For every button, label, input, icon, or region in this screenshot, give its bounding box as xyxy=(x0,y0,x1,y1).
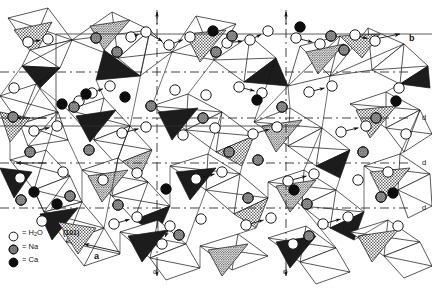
polyhedron-cluster-r4c2 xyxy=(120,220,200,280)
atom-na-shade xyxy=(65,191,75,201)
atom-h2o xyxy=(126,32,136,42)
atom-h2o xyxy=(370,36,380,46)
legend-item-na: = Na xyxy=(8,240,86,253)
atom-h2o xyxy=(185,32,195,42)
atom-h2o xyxy=(327,81,337,91)
legend-label-na: = Na xyxy=(22,243,38,251)
atom-h2o xyxy=(401,129,411,139)
atom-ca xyxy=(52,199,62,209)
atom-h2o xyxy=(234,82,244,92)
water-bond xyxy=(314,88,325,91)
legend-item-ca: = Ca xyxy=(8,253,86,266)
atom-na-shade xyxy=(326,31,336,41)
atom-h2o xyxy=(361,121,371,131)
atom-h2o xyxy=(98,175,108,185)
atom-na-shade xyxy=(227,31,237,41)
atom-ca xyxy=(57,99,67,109)
atom-ca xyxy=(295,22,305,32)
atom-na-shade xyxy=(84,145,94,155)
atom-h2o xyxy=(165,221,175,231)
crystal-structure-figure: a b (101) dddddd = H2O = Na = Ca xyxy=(0,0,432,291)
atom-h2o xyxy=(241,220,251,230)
atom-ca xyxy=(161,184,171,194)
atom-ca xyxy=(208,26,218,36)
atom-na-shade xyxy=(113,200,123,210)
atom-na-shade xyxy=(253,155,263,165)
atom-ca xyxy=(120,92,130,102)
atom-na-shade xyxy=(112,47,122,57)
na-circle-icon xyxy=(8,241,19,252)
atom-na-shade xyxy=(371,113,381,123)
atom-na-shade xyxy=(25,147,35,157)
polyhedron-cluster-r4c5 xyxy=(350,220,432,278)
water-bond xyxy=(346,128,358,131)
axis-label-b: b xyxy=(409,34,415,43)
atom-h2o xyxy=(245,35,255,45)
atom-h2o xyxy=(132,168,142,178)
atom-h2o xyxy=(37,216,47,226)
polyhedron-cluster-r3c1 xyxy=(0,150,82,212)
atom-ca xyxy=(252,95,262,105)
atom-na-shade xyxy=(146,101,156,111)
polyhedron-cluster-r2c3 xyxy=(152,94,254,166)
atom-h2o xyxy=(43,34,53,44)
atom-h2o xyxy=(58,167,68,177)
glide-label-bottom-2: d xyxy=(283,268,287,276)
atom-h2o xyxy=(350,30,360,40)
atom-na-shade xyxy=(304,231,314,241)
axis-label-a: a xyxy=(94,252,99,261)
atom-ca xyxy=(289,185,299,195)
atom-h2o xyxy=(263,26,273,36)
atom-ca xyxy=(29,187,39,197)
atom-h2o xyxy=(210,123,220,133)
glide-label-right-3: d xyxy=(422,159,426,167)
atom-na-shade xyxy=(358,147,368,157)
atom-h2o xyxy=(15,173,25,183)
atom-na-shade xyxy=(224,147,234,157)
atom-h2o xyxy=(9,83,19,93)
atom-na-shade xyxy=(339,45,349,55)
legend: = H2O = Na = Ca xyxy=(8,227,86,266)
atom-na-shade xyxy=(174,230,184,240)
atom-h2o xyxy=(304,87,314,97)
atom-ca xyxy=(388,188,398,198)
atom-na-shade xyxy=(302,199,312,209)
atom-na-shade xyxy=(277,102,287,112)
legend-label-h2o: = H2O xyxy=(22,229,43,238)
atom-h2o xyxy=(315,39,325,49)
atom-h2o xyxy=(109,219,119,229)
polyhedron-cluster-r3c3 xyxy=(170,154,268,228)
atom-h2o xyxy=(141,27,151,37)
atom-ca xyxy=(81,89,91,99)
atom-h2o xyxy=(383,167,393,177)
atom-h2o xyxy=(272,122,282,132)
legend-item-h2o: = H2O xyxy=(8,227,86,240)
atom-h2o xyxy=(23,37,33,47)
atom-h2o xyxy=(29,126,39,136)
glide-label-right-4: d xyxy=(422,204,426,212)
water-bond xyxy=(244,88,255,91)
atom-h2o xyxy=(52,121,62,131)
atom-h2o xyxy=(117,128,127,138)
atom-h2o xyxy=(201,90,211,100)
atom-h2o xyxy=(170,85,180,95)
atom-h2o xyxy=(157,239,167,249)
water-bond xyxy=(255,34,261,37)
atom-h2o xyxy=(248,129,258,139)
atom-h2o xyxy=(266,213,276,223)
atom-na-shade xyxy=(376,192,386,202)
atom-na-shade xyxy=(198,113,208,123)
atom-h2o xyxy=(105,81,115,91)
h2o-circle-icon xyxy=(8,228,19,239)
polyhedron-cluster-r2c4 xyxy=(254,108,350,178)
atom-h2o xyxy=(217,167,227,177)
atom-h2o xyxy=(353,175,363,185)
atom-h2o xyxy=(318,219,328,229)
atom-h2o xyxy=(164,40,174,50)
water-bond xyxy=(301,39,312,42)
polyhedron-cluster-r4c3 xyxy=(200,234,268,276)
atom-na-shade xyxy=(211,47,221,57)
atom-h2o xyxy=(196,214,206,224)
atom-h2o xyxy=(343,212,353,222)
atom-h2o xyxy=(178,130,188,140)
